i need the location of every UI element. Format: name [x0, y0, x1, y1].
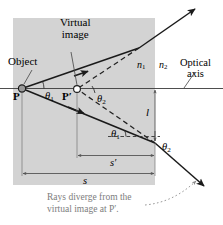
figure-caption: Rays diverge from the virtual image at P…: [47, 192, 132, 216]
label-distance-l: l: [146, 107, 149, 119]
figure-caption-line1: Rays diverge from the: [47, 192, 132, 204]
label-n2: n2: [159, 60, 167, 71]
label-optical-axis: Optical axis: [180, 57, 211, 79]
label-theta1-upper: θ1: [45, 90, 54, 103]
medium-n1-region: [13, 18, 155, 185]
label-n1-subscript: 1: [142, 63, 145, 70]
virtual-image-point-marker: [74, 86, 81, 93]
label-point-p: P: [13, 91, 20, 103]
label-n1: n1: [137, 60, 145, 71]
label-optical-axis-line2: axis: [180, 68, 211, 79]
label-optical-axis-line1: Optical: [180, 57, 211, 68]
label-theta2-lower-subscript: 2: [167, 146, 171, 154]
label-theta1-lower: θ1: [111, 128, 120, 141]
label-theta2-upper: θ2: [97, 93, 106, 106]
optics-diagram-figure: Object Virtual image Optical axis P P′ n…: [0, 0, 223, 225]
label-virtual-image-line2: image: [60, 29, 91, 41]
figure-caption-line2: virtual image at P′.: [47, 204, 132, 216]
label-theta2-upper-subscript: 2: [102, 98, 106, 106]
label-theta1-upper-subscript: 1: [50, 95, 54, 103]
label-distance-s: s: [83, 175, 87, 186]
label-object: Object: [8, 56, 37, 68]
label-virtual-image: Virtual image: [60, 17, 91, 40]
label-n2-subscript: 2: [164, 63, 167, 70]
label-point-p-prime: P′: [62, 91, 72, 103]
label-theta2-lower: θ2: [162, 141, 171, 154]
label-distance-s-prime: s′: [110, 157, 116, 168]
label-virtual-image-line1: Virtual: [60, 17, 91, 29]
label-theta1-lower-subscript: 1: [116, 133, 120, 141]
